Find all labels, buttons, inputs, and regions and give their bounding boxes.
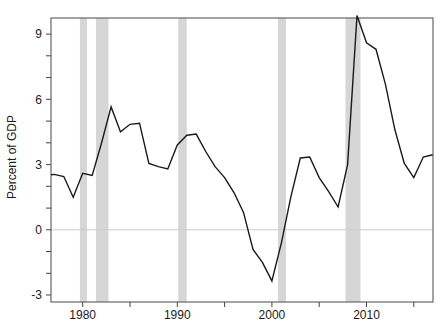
recession-band	[96, 18, 109, 302]
y-tick-label: -3	[31, 288, 42, 302]
x-tick-label: 1980	[69, 308, 96, 322]
x-tick-label: 1990	[164, 308, 191, 322]
recession-bands	[80, 18, 361, 302]
y-axis-title: Percent of GDP	[5, 115, 19, 199]
y-tick-label: 3	[35, 158, 42, 172]
y-tick-label: 6	[35, 93, 42, 107]
y-tick-label: 9	[35, 27, 42, 41]
x-tick-label: 2010	[353, 308, 380, 322]
y-tick-label: 0	[35, 223, 42, 237]
recession-band	[178, 18, 187, 302]
line-chart: 1980199020002010 -30369 Percent of GDP	[0, 0, 444, 335]
x-axis-tick-labels: 1980199020002010	[69, 308, 380, 322]
x-tick-label: 2000	[259, 308, 286, 322]
y-axis-tick-labels: -30369	[31, 27, 42, 302]
recession-band	[80, 18, 87, 302]
deficit-chart-figure: 1980199020002010 -30369 Percent of GDP	[0, 0, 444, 335]
recession-band	[278, 18, 286, 302]
